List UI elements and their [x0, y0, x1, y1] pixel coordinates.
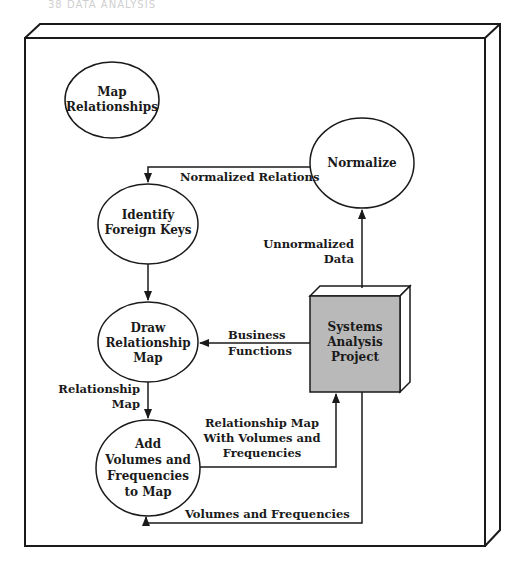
flow-relationship-map: Relationship Map [58, 382, 148, 418]
process-draw-line-2: Relationship [105, 336, 190, 350]
process-draw-relationship-map[interactable]: Draw Relationship Map [98, 302, 198, 382]
flow-unnormalized-data: Unnormalized Data [263, 210, 362, 288]
flow-relationship-map-line-1: Relationship [58, 382, 140, 396]
data-store-systems-analysis-project[interactable]: Systems Analysis Project [310, 286, 410, 392]
title-node-line-1: Map [97, 85, 126, 99]
flow-business-line-1: Business [228, 328, 286, 342]
data-store-line-1: Systems [327, 320, 382, 334]
flow-unnormalized-line-1: Unnormalized [263, 237, 354, 251]
data-store-line-2: Analysis [326, 335, 383, 349]
process-identify-foreign-keys[interactable]: Identify Foreign Keys [98, 184, 198, 264]
flow-business-line-2: Functions [228, 344, 292, 358]
process-add-line-1: Add [134, 437, 162, 451]
flow-relationship-map-volumes: Relationship Map With Volumes and Freque… [200, 394, 336, 467]
title-node-line-2: Relationships [66, 100, 158, 114]
page-header: 38 DATA ANALYSIS [48, 0, 156, 10]
data-store-line-3: Project [331, 350, 380, 364]
flow-volumes-frequencies-label: Volumes and Frequencies [184, 507, 350, 521]
flow-unnormalized-line-2: Data [324, 252, 355, 266]
process-add-line-3: Frequencies [107, 469, 189, 483]
flow-rmv-line-2: With Volumes and [203, 431, 321, 445]
process-identify-line-1: Identify [122, 208, 176, 222]
flow-normalized-relations: Normalized Relations [148, 167, 319, 184]
process-draw-line-1: Draw [131, 321, 167, 335]
process-add-line-4: to Map [124, 485, 171, 499]
title-node-map-relationships: Map Relationships [65, 62, 159, 138]
process-add-volumes-frequencies[interactable]: Add Volumes and Frequencies to Map [96, 420, 200, 516]
process-add-line-2: Volumes and [104, 453, 191, 467]
data-flow-diagram: 38 DATA ANALYSIS Map Relationships Norma… [0, 0, 519, 567]
process-normalize[interactable]: Normalize [310, 118, 414, 208]
flow-business-functions: Business Functions [200, 328, 310, 358]
process-identify-line-2: Foreign Keys [104, 223, 191, 237]
flow-relationship-map-line-2: Map [112, 397, 140, 411]
flow-rmv-line-1: Relationship Map [205, 416, 319, 430]
flow-normalized-relations-label: Normalized Relations [180, 170, 319, 184]
flow-rmv-line-3: Frequencies [223, 446, 302, 460]
process-draw-line-3: Map [133, 351, 162, 365]
process-normalize-label: Normalize [327, 156, 397, 170]
